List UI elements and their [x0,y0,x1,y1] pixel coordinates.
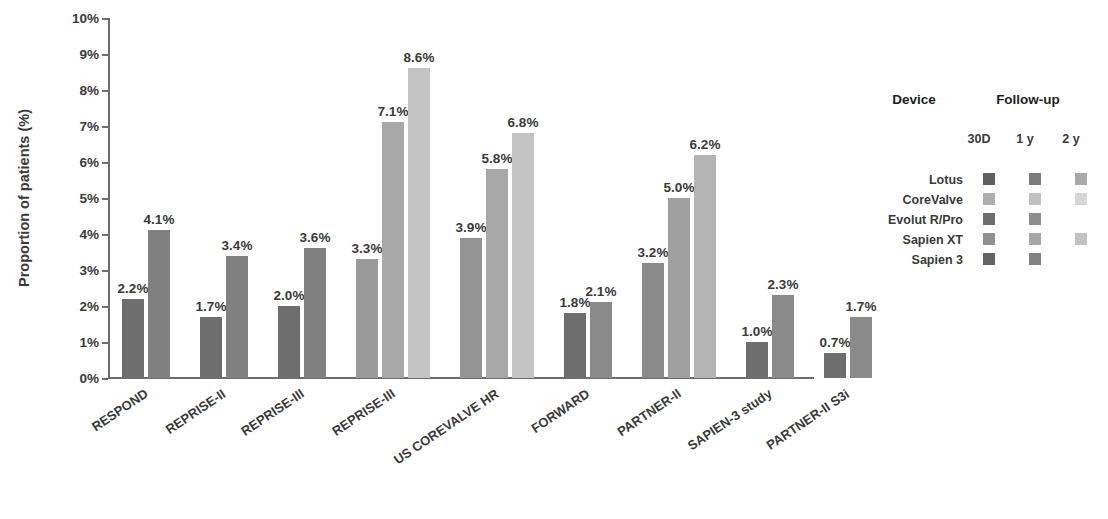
bar[interactable]: 0.7% [824,353,846,378]
y-tick-label: 1% [79,335,99,350]
bar[interactable]: 6.8% [512,133,534,378]
legend-device-label: Sapien XT [903,233,963,247]
bar[interactable]: 1.8% [564,313,586,378]
y-tick-label: 2% [79,299,99,314]
y-axis-label-wrap: Proportion of patients (%) [14,18,34,378]
chart-root: Proportion of patients (%) 0%1%2%3%4%5%6… [0,0,1108,519]
bar[interactable]: 1.0% [746,342,768,378]
bar-fill [824,353,846,378]
bar-value-label: 1.0% [742,324,773,339]
y-tick-mark [102,18,108,20]
y-axis-label: Proportion of patients (%) [16,109,32,287]
y-tick-mark [102,306,108,308]
bar-fill [460,238,482,378]
bar[interactable]: 3.6% [304,248,326,378]
bar-value-label: 3.3% [352,241,383,256]
x-axis-category-label: PARTNER-II S3i [764,386,852,452]
bar-value-label: 2.2% [118,281,149,296]
bar[interactable]: 4.1% [148,230,170,378]
y-tick-label: 8% [79,83,99,98]
bar[interactable]: 3.4% [226,256,248,378]
legend-swatch [983,233,995,245]
bar[interactable]: 3.3% [356,259,378,378]
bar-value-label: 2.1% [586,284,617,299]
x-axis-category-label: FORWARD [528,386,592,436]
legend-row[interactable]: Sapien 3 [973,250,1103,269]
legend-swatch [983,253,995,265]
bar[interactable]: 5.8% [486,169,508,378]
legend-swatch [1029,173,1041,185]
bar[interactable]: 3.9% [460,238,482,378]
legend-swatch [1029,193,1041,205]
y-tick-mark [102,162,108,164]
y-tick-label: 4% [79,227,99,242]
legend-swatch [983,173,995,185]
bar-fill [356,259,378,378]
y-tick-mark [102,234,108,236]
legend-row[interactable]: Sapien XT [973,230,1103,249]
bar-fill [408,68,430,378]
y-tick-label: 5% [79,191,99,206]
bar-value-label: 5.0% [664,180,695,195]
legend-row[interactable]: Lotus [973,170,1103,189]
y-tick-label: 3% [79,263,99,278]
bar[interactable]: 8.6% [408,68,430,378]
legend-followup-header: Follow-up [963,92,1093,107]
legend-swatch [1029,213,1041,225]
bar-fill [746,342,768,378]
x-axis-category-label: REPRISE-II [163,386,228,437]
y-tick-mark [102,342,108,344]
bar[interactable]: 5.0% [668,198,690,378]
bar[interactable]: 2.2% [122,299,144,378]
bar[interactable]: 1.7% [200,317,222,378]
bar-value-label: 3.4% [222,238,253,253]
bar-value-label: 1.7% [846,299,877,314]
bar-value-label: 1.7% [196,299,227,314]
legend-device-label: CoreValve [903,193,963,207]
legend-device-label: Sapien 3 [912,253,963,267]
bar-fill [382,122,404,378]
y-tick-label: 7% [79,119,99,134]
legend-device-header: Device [855,92,973,107]
legend-swatch [1075,173,1087,185]
bar-value-label: 3.2% [638,245,669,260]
bar[interactable]: 2.3% [772,295,794,378]
y-tick-mark [102,54,108,56]
bar[interactable]: 2.1% [590,302,612,378]
bar-fill [512,133,534,378]
y-tick-mark [102,126,108,128]
bar-fill [564,313,586,378]
bar[interactable]: 6.2% [694,155,716,378]
bar[interactable]: 2.0% [278,306,300,378]
y-axis-line [108,18,110,378]
legend-swatch [1075,193,1087,205]
y-tick-label: 0% [79,371,99,386]
bar-value-label: 4.1% [144,212,175,227]
bar-fill [486,169,508,378]
bar-fill [772,295,794,378]
y-tick-mark [102,378,108,380]
legend: Device Follow-up 30D1 y2 y LotusCoreValv… [855,92,1095,282]
bar-fill [278,306,300,378]
legend-row[interactable]: CoreValve [973,190,1103,209]
bar-value-label: 3.6% [300,230,331,245]
legend-swatch [983,193,995,205]
bar-fill [226,256,248,378]
bar[interactable]: 7.1% [382,122,404,378]
bar-value-label: 8.6% [404,50,435,65]
plot-area: 0%1%2%3%4%5%6%7%8%9%10% 2.2%4.1%1.7%3.4%… [108,18,808,378]
legend-swatch [1029,253,1041,265]
y-tick-label: 6% [79,155,99,170]
x-axis-category-label: REPRISE-III [329,386,397,439]
y-tick-label: 9% [79,47,99,62]
bar-fill [850,317,872,378]
legend-row[interactable]: Evolut R/Pro [973,210,1103,229]
y-tick-mark [102,270,108,272]
x-axis-category-label: US COREVALVE HR [391,386,501,467]
bar[interactable]: 1.7% [850,317,872,378]
bar-value-label: 2.3% [768,277,799,292]
x-axis-category-label: SAPIEN-3 study [685,386,775,453]
bar[interactable]: 3.2% [642,263,664,378]
legend-device-label: Evolut R/Pro [888,213,963,227]
y-tick-label: 10% [72,11,99,26]
